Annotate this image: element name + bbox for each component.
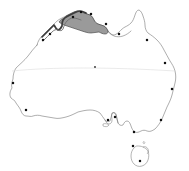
marker-arnhem-west [72,16,75,19]
marker-arnhem-east [80,11,83,14]
flinders-island [143,142,145,144]
marker-hobart [139,160,142,163]
marker-brisbane [171,88,174,91]
marker-melbourne [132,145,135,148]
marker-kimberley-coast [42,39,45,42]
marker-adelaide [114,116,117,119]
marker-shark-bay [12,82,15,85]
marker-gulf-coast [118,33,121,36]
marker-darwin [49,33,52,36]
marker-perth [25,109,28,112]
marker-sydney [160,119,163,122]
marker-canberra [133,131,136,134]
marker-rockhampton [164,62,167,65]
map-canvas [0,0,189,171]
marker-centre [94,66,96,68]
marker-top-end-south [105,23,108,26]
marker-port-lincoln [107,119,110,122]
australia-map [0,0,189,171]
marker-cairns [146,39,149,42]
marker-gove [90,13,93,16]
tasmania-outline [131,146,149,166]
